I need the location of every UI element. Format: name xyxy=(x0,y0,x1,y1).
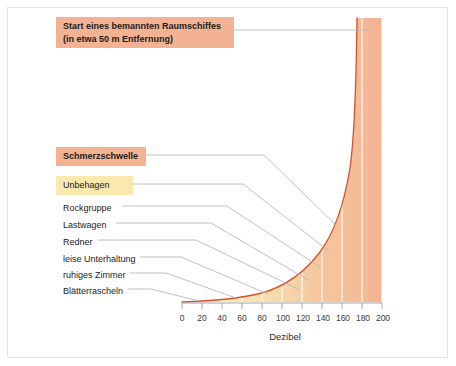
annotation-spaceship-line1: Start eines bemannten Raumschiffes xyxy=(63,20,227,33)
x-axis-title: Dezibel xyxy=(269,331,301,342)
annotation-speaker: Redner xyxy=(56,233,100,252)
area-fill xyxy=(182,18,382,302)
annotation-rustling-leaves: Blätterrascheln xyxy=(56,282,130,301)
leader-line-quiet-conversation xyxy=(140,257,268,294)
x-tick-label-200: 200 xyxy=(376,313,390,323)
annotation-spaceship-line2: (in etwa 50 m Entfernung) xyxy=(63,33,227,46)
x-tick-label-80: 80 xyxy=(257,313,266,323)
annotation-spaceship: Start eines bemannten Raumschiffes (in e… xyxy=(56,17,234,48)
chart-page: Start eines bemannten Raumschiffes (in e… xyxy=(0,0,456,366)
x-tick-label-40: 40 xyxy=(217,313,226,323)
annotation-pain-threshold: Schmerzschwelle xyxy=(56,147,146,166)
x-tick-label-100: 100 xyxy=(276,313,290,323)
leader-line-truck xyxy=(116,223,310,281)
leader-line-rustling-leaves xyxy=(128,289,199,301)
x-axis xyxy=(182,303,382,309)
leader-line-discomfort xyxy=(133,184,330,252)
leader-line-rock-band xyxy=(122,206,320,267)
x-tick-label-120: 120 xyxy=(296,313,310,323)
x-tick-label-160: 160 xyxy=(336,313,350,323)
annotation-rock-band: Rockgruppe xyxy=(56,199,119,218)
x-tick-label-60: 60 xyxy=(237,313,246,323)
x-tick-label-0: 0 xyxy=(180,313,185,323)
annotation-discomfort: Unbehagen xyxy=(56,176,133,195)
x-tick-label-180: 180 xyxy=(356,313,370,323)
x-tick-label-140: 140 xyxy=(316,313,330,323)
annotation-truck: Lastwagen xyxy=(56,216,114,235)
leader-line-pain-threshold xyxy=(146,155,339,228)
x-tick-label-20: 20 xyxy=(197,313,206,323)
leader-line-quiet-room xyxy=(130,273,236,298)
